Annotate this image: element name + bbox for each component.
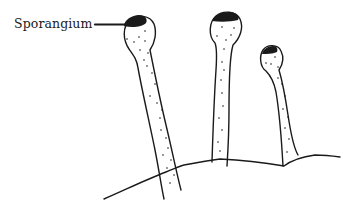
stalk-2-outline [210, 12, 241, 166]
sporangium-cap-2 [212, 12, 239, 22]
sporangiophore-1 [124, 16, 181, 199]
sporangiophore-2 [210, 12, 241, 166]
sporangium-diagram: Sporangium [0, 0, 343, 213]
diagram-drawing [0, 0, 343, 213]
sporangium-cap-1 [124, 15, 147, 27]
sporangium-cap-3 [262, 46, 277, 54]
stalk-1-outline [124, 16, 181, 199]
ground-line [104, 155, 340, 199]
